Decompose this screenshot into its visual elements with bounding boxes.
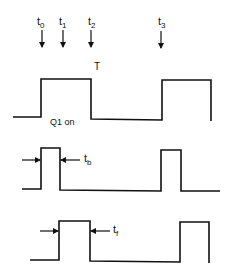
timing-diagram: t0 t1 t2 t3 T Q1 on tb tf	[0, 0, 226, 277]
tb-label: tb	[84, 152, 92, 167]
waveform-1	[13, 79, 211, 121]
tf-label: tf	[113, 223, 119, 238]
q1-on-label: Q1 on	[50, 117, 75, 127]
svg-text:t1: t1	[59, 15, 67, 30]
svg-text:t0: t0	[37, 15, 45, 30]
time-marker-t2: t2	[88, 15, 96, 47]
waveform-3	[30, 221, 209, 263]
time-marker-t0: t0	[37, 15, 45, 47]
waveform-2	[22, 148, 220, 191]
svg-text:t3: t3	[158, 15, 166, 30]
time-marker-t1: t1	[59, 15, 67, 47]
period-label: T	[94, 61, 100, 72]
time-marker-t3: t3	[158, 15, 166, 48]
svg-text:t2: t2	[88, 15, 96, 30]
